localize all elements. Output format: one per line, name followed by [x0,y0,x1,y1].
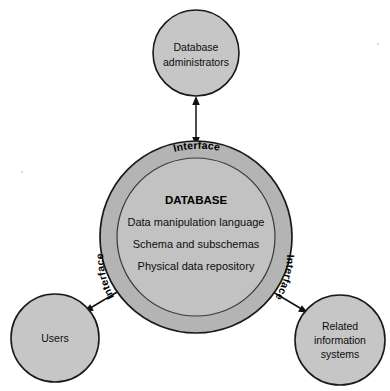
node-users[interactable]: Users [11,294,99,382]
scan-speck [21,171,23,173]
scan-speck [377,43,379,45]
connector-admins-to-database [192,96,200,146]
related-information-systems-label-line-3: systems [321,348,360,360]
database-ring [100,141,292,333]
node-database-administrators[interactable]: Database administrators [153,10,239,96]
database-administrators-circle[interactable] [153,10,239,96]
database-administrators-label-line-1: Database [174,41,219,53]
database-core-line-2: Schema and subschemas [133,238,260,250]
database-core-line-3: Physical data repository [138,260,255,272]
database-core-line-1: Data manipulation language [128,216,265,228]
users-label: Users [41,332,68,344]
database-administrators-label-line-2: administrators [163,56,229,68]
arrow-head-up [192,96,200,105]
related-information-systems-label-line-2: information [314,334,366,346]
database-core-heading: DATABASE [165,194,228,206]
node-related-information-systems[interactable]: Related information systems [295,295,385,385]
related-information-systems-label-line-1: Related [322,320,358,332]
diagram-canvas: Interface Interface Interface DATABASE D… [0,0,390,391]
database-environment-diagram: Interface Interface Interface DATABASE D… [0,0,390,391]
